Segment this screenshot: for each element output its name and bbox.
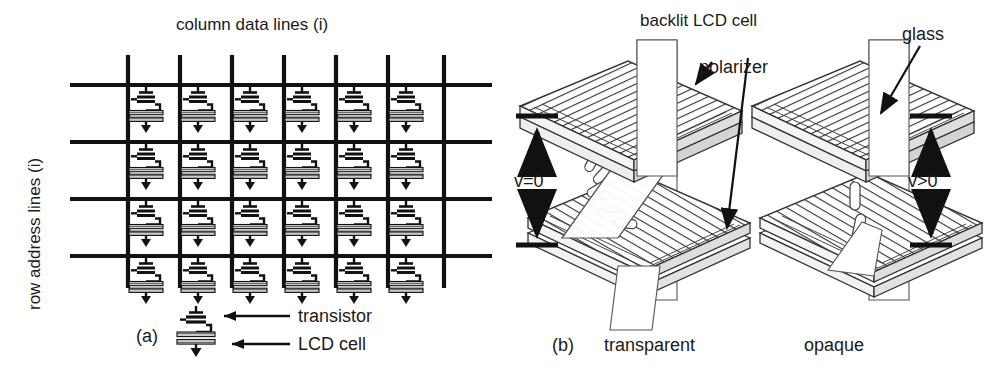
opaque-cell-graphic bbox=[752, 40, 982, 300]
polarizer-long-leader bbox=[727, 58, 748, 228]
matrix-schematic bbox=[0, 0, 500, 377]
figure-root: column data lines (i) row address lines … bbox=[0, 0, 986, 377]
legend-arrow-lcd-cell bbox=[232, 339, 290, 349]
exit-light-ribbon bbox=[610, 266, 660, 330]
panel-b-lcd-cells: backlit LCD cell bbox=[500, 0, 986, 377]
polarizer-label: polarizer bbox=[699, 58, 768, 76]
legend-label-lcd-cell: LCD cell bbox=[298, 335, 366, 353]
transparent-cell-graphic bbox=[520, 40, 750, 330]
backlight-sheet-front bbox=[637, 40, 677, 176]
panel-b-tag: (b) bbox=[552, 336, 574, 354]
caption-opaque: opaque bbox=[804, 336, 864, 354]
backlight-sheet-front bbox=[869, 40, 909, 176]
panel-a-matrix: column data lines (i) row address lines … bbox=[0, 0, 500, 377]
voltage-label-transparent: v=0 bbox=[514, 172, 544, 190]
upper-plate-assembly bbox=[520, 61, 742, 182]
voltage-label-opaque: v>0 bbox=[908, 172, 938, 190]
legend-symbol bbox=[177, 306, 215, 357]
upper-plate-assembly bbox=[752, 61, 974, 182]
pixel-cell-array bbox=[129, 85, 423, 304]
caption-transparent: transparent bbox=[604, 336, 695, 354]
panel-a-tag: (a) bbox=[136, 327, 158, 345]
glass-label: glass bbox=[902, 25, 944, 43]
legend-arrow-transistor bbox=[224, 311, 290, 321]
legend-label-transistor: transistor bbox=[298, 307, 372, 325]
